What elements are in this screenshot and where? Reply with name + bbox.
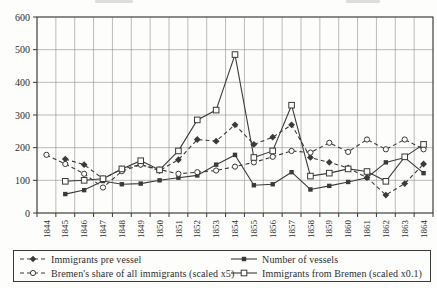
x-tick-label: 1850 — [155, 220, 165, 239]
x-tick-label: 1845 — [60, 220, 70, 239]
filled-square-marker-icon — [421, 171, 425, 175]
x-tick-label: 1862 — [381, 220, 391, 238]
open-circle-marker-icon — [176, 171, 181, 176]
open-square-marker-icon — [100, 176, 106, 182]
x-tick-label: 1857 — [287, 220, 297, 239]
legend-diamond-filled-symbol-icon — [20, 254, 46, 264]
x-tick-label: 1846 — [79, 220, 89, 239]
open-square-marker-icon — [289, 102, 295, 108]
open-circle-marker-icon — [63, 161, 68, 166]
open-circle-marker-icon — [100, 185, 105, 190]
open-square-marker-icon — [119, 166, 125, 172]
chart-svg: 0100200300400500600184418451846184718481… — [0, 0, 437, 248]
x-tick-label: 1864 — [419, 220, 429, 239]
open-circle-marker-icon — [364, 137, 369, 142]
open-circle-marker-icon — [82, 171, 87, 176]
diamond-marker-icon — [288, 121, 295, 128]
open-square-marker-icon — [157, 167, 163, 173]
open-circle-marker-icon — [214, 168, 219, 173]
open-square-marker-icon — [213, 107, 219, 113]
open-circle-marker-icon — [346, 149, 351, 154]
y-tick-label: 500 — [15, 44, 30, 55]
open-square-marker-icon — [138, 158, 144, 164]
legend-label: Number of vessels — [262, 254, 338, 265]
x-tick-label: 1844 — [42, 220, 52, 239]
filled-square-marker-icon — [233, 153, 237, 157]
diamond-marker-icon — [232, 121, 239, 128]
x-tick-label: 1861 — [362, 220, 372, 238]
filled-square-marker-icon — [327, 184, 331, 188]
x-tick-label: 1858 — [306, 220, 316, 239]
open-square-marker-icon — [232, 52, 238, 58]
open-square-marker-icon — [62, 179, 68, 185]
x-tick-label: 1849 — [136, 220, 146, 239]
square-filled-marker-icon — [242, 257, 246, 261]
legend-square-filled-symbol-icon — [231, 254, 257, 264]
open-square-marker-icon — [383, 179, 389, 185]
open-square-marker-icon — [364, 169, 370, 175]
x-tick-label: 1847 — [98, 220, 108, 239]
circle-open-marker-icon — [30, 270, 35, 275]
x-tick-label: 1863 — [400, 220, 410, 239]
filled-square-marker-icon — [365, 176, 369, 180]
open-circle-marker-icon — [232, 164, 237, 169]
filled-square-marker-icon — [157, 178, 161, 182]
filled-square-marker-icon — [120, 182, 124, 186]
legend-label: Immigrants from Bremen (scaled x0.1) — [262, 268, 422, 279]
filled-square-marker-icon — [384, 160, 388, 164]
open-square-marker-icon — [326, 170, 332, 176]
filled-square-marker-icon — [289, 170, 293, 174]
y-tick-label: 300 — [15, 110, 30, 121]
open-circle-marker-icon — [383, 147, 388, 152]
filled-square-marker-icon — [252, 183, 256, 187]
legend-item: Immigrants pre vessel — [20, 252, 231, 266]
open-circle-marker-icon — [270, 154, 275, 159]
x-tick-label: 1856 — [268, 220, 278, 239]
open-square-marker-icon — [421, 142, 427, 148]
open-square-marker-icon — [402, 154, 408, 160]
y-tick-label: 200 — [15, 142, 30, 153]
legend-circle-open-symbol-icon — [20, 268, 46, 278]
open-circle-marker-icon — [44, 152, 49, 157]
chart: 0100200300400500600184418451846184718481… — [0, 0, 437, 288]
x-tick-label: 1855 — [249, 220, 259, 239]
open-square-marker-icon — [308, 173, 314, 179]
open-square-marker-icon — [270, 148, 276, 154]
chart-legend: Immigrants pre vesselNumber of vesselsBr… — [13, 250, 431, 282]
legend-label: Bremen's share of all immigrants (scaled… — [51, 268, 234, 279]
diamond-filled-marker-icon — [30, 256, 36, 262]
filled-square-marker-icon — [139, 181, 143, 185]
open-circle-marker-icon — [308, 150, 313, 155]
open-square-marker-icon — [194, 117, 200, 123]
filled-square-marker-icon — [271, 182, 275, 186]
legend-label: Immigrants pre vessel — [51, 254, 141, 265]
filled-square-marker-icon — [63, 192, 67, 196]
open-circle-marker-icon — [402, 137, 407, 142]
x-tick-label: 1851 — [174, 220, 184, 238]
diamond-marker-icon — [269, 134, 276, 141]
y-tick-label: 400 — [15, 77, 30, 88]
open-circle-marker-icon — [327, 140, 332, 145]
open-square-marker-icon — [176, 148, 182, 154]
open-square-marker-icon — [251, 155, 257, 161]
open-circle-marker-icon — [289, 148, 294, 153]
legend-item: Bremen's share of all immigrants (scaled… — [20, 266, 231, 280]
filled-square-marker-icon — [214, 162, 218, 166]
legend-item: Number of vessels — [231, 252, 426, 266]
open-square-marker-icon — [81, 178, 87, 184]
y-tick-label: 100 — [15, 175, 30, 186]
y-tick-label: 0 — [25, 208, 30, 219]
x-tick-label: 1848 — [117, 220, 127, 239]
diamond-marker-icon — [326, 159, 333, 166]
open-square-marker-icon — [345, 166, 351, 172]
x-tick-label: 1852 — [192, 220, 202, 238]
x-tick-label: 1853 — [211, 220, 221, 239]
x-tick-label: 1860 — [343, 220, 353, 239]
filled-square-marker-icon — [346, 180, 350, 184]
square-open-marker-icon — [241, 270, 247, 276]
x-tick-label: 1859 — [324, 220, 334, 239]
x-tick-label: 1854 — [230, 220, 240, 239]
legend-square-open-symbol-icon — [231, 268, 257, 278]
legend-item: Immigrants from Bremen (scaled x0.1) — [231, 266, 426, 280]
y-tick-label: 600 — [15, 12, 30, 23]
